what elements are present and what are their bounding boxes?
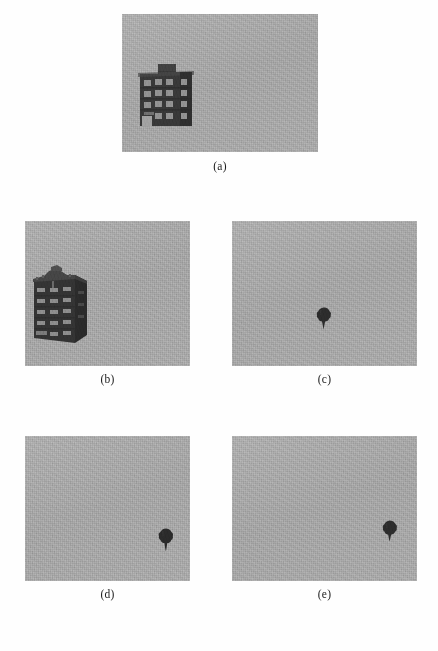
panel-d: (d) — [25, 436, 190, 581]
panel-e-image — [232, 436, 417, 581]
tree-d-icon — [158, 528, 174, 552]
panel-c-caption: (c) — [232, 373, 417, 385]
panel-e-caption: (e) — [232, 588, 417, 600]
panel-d-texture — [25, 436, 190, 581]
panel-b-image — [25, 221, 190, 366]
panel-b: (b) — [25, 221, 190, 366]
panel-d-image — [25, 436, 190, 581]
panel-e: (e) — [232, 436, 417, 581]
panel-a: (a) — [122, 14, 318, 152]
building-b-icon — [31, 265, 93, 345]
panel-d-caption: (d) — [25, 588, 190, 600]
tree-e-icon — [382, 520, 398, 542]
panel-e-texture — [232, 436, 417, 581]
panel-b-caption: (b) — [25, 373, 190, 385]
panel-a-caption: (a) — [122, 160, 318, 172]
figure-root: (a) — [0, 0, 438, 651]
panel-c: (c) — [232, 221, 417, 366]
building-a-icon — [136, 58, 204, 130]
tree-c-icon — [316, 307, 332, 330]
panel-c-image — [232, 221, 417, 366]
panel-c-texture — [232, 221, 417, 366]
panel-a-image — [122, 14, 318, 152]
